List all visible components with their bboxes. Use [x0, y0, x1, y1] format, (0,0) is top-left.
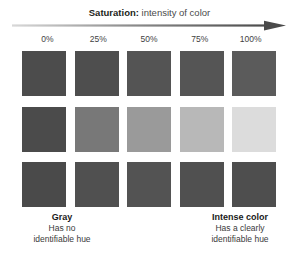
swatch-middle-75 [180, 107, 224, 152]
caption-intense-color: Intense color Has a clearly identifiable… [184, 211, 296, 244]
tick-label-50: 50% [124, 33, 175, 47]
swatch-row-bottom [22, 162, 276, 207]
swatch-top-100 [232, 51, 276, 96]
right-arrow-icon [12, 20, 287, 32]
swatch-bottom-75 [180, 162, 224, 207]
swatch-top-25 [75, 51, 119, 96]
caption-gray-title: Gray [6, 211, 118, 223]
saturation-diagram: Saturation: intensity of color 0% 25% 50… [0, 0, 299, 255]
tick-label-75: 75% [174, 33, 225, 47]
swatch-middle-50 [127, 107, 171, 152]
tick-label-25: 25% [73, 33, 124, 47]
percent-tick-row: 0% 25% 50% 75% 100% [22, 33, 276, 47]
caption-gray: Gray Has no identifiable hue [6, 211, 118, 244]
caption-intense-line2: identifiable hue [184, 234, 296, 245]
swatch-top-50 [127, 51, 171, 96]
swatch-bottom-100 [232, 162, 276, 207]
swatch-middle-100 [232, 107, 276, 152]
swatch-grid [22, 51, 276, 207]
swatch-row-top [22, 51, 276, 96]
swatch-bottom-50 [127, 162, 171, 207]
swatch-bottom-0 [22, 162, 66, 207]
tick-label-0: 0% [22, 33, 73, 47]
swatch-middle-25 [75, 107, 119, 152]
caption-gray-line1: Has no [6, 223, 118, 234]
swatch-middle-0 [22, 107, 66, 152]
diagram-title: Saturation: intensity of color [0, 7, 299, 18]
swatch-top-75 [180, 51, 224, 96]
swatch-top-0 [22, 51, 66, 96]
caption-intense-line1: Has a clearly [184, 223, 296, 234]
caption-gray-line2: identifiable hue [6, 234, 118, 245]
tick-label-100: 100% [225, 33, 276, 47]
caption-intense-title: Intense color [184, 211, 296, 223]
swatch-bottom-25 [75, 162, 119, 207]
saturation-arrow [12, 20, 287, 32]
swatch-row-middle [22, 107, 276, 152]
diagram-title-rest: intensity of color [139, 7, 210, 18]
diagram-title-lead: Saturation: [89, 7, 139, 18]
